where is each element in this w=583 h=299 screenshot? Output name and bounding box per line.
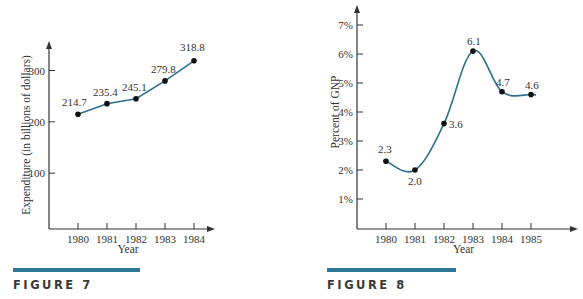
data-line bbox=[384, 51, 536, 172]
data-point bbox=[528, 92, 534, 98]
data-label: 279.8 bbox=[151, 63, 176, 75]
figure-7-caption: FIGURE 7 bbox=[13, 278, 93, 292]
x-tick-label: 1985 bbox=[520, 233, 543, 245]
figure-8-chart: 1%2%3%4%5%6%7%198019811982198319841985Ye… bbox=[329, 5, 578, 255]
figure-8-caption: FIGURE 8 bbox=[327, 278, 407, 292]
charts-canvas: 10020030019801981198219831984YearExpendi… bbox=[0, 0, 583, 299]
data-label: 318.8 bbox=[180, 41, 205, 53]
y-tick-label: 7% bbox=[338, 19, 353, 31]
y-axis-title: Expenditure (in billions of dollars) bbox=[20, 55, 33, 215]
data-point bbox=[412, 167, 418, 173]
data-point bbox=[383, 159, 389, 165]
y-tick-label: 2% bbox=[338, 164, 353, 176]
y-axis-arrow-icon bbox=[46, 41, 52, 49]
figure-7-accent-bar bbox=[13, 268, 140, 272]
x-tick-label: 1981 bbox=[96, 233, 118, 245]
x-tick-label: 1984 bbox=[491, 233, 514, 245]
figure-7-chart: 10020030019801981198219831984YearExpendi… bbox=[20, 41, 215, 255]
data-label: 235.4 bbox=[93, 86, 118, 98]
x-tick-label: 1984 bbox=[183, 233, 206, 245]
data-label: 2.3 bbox=[378, 143, 392, 155]
x-tick-label: 1983 bbox=[154, 233, 177, 245]
data-label: 3.6 bbox=[449, 118, 463, 130]
data-label: 2.0 bbox=[408, 175, 422, 187]
x-axis-arrow-icon bbox=[570, 226, 578, 232]
figure-8-accent-bar bbox=[327, 268, 456, 272]
y-tick-label: 6% bbox=[338, 48, 353, 60]
data-label: 6.1 bbox=[467, 35, 481, 47]
y-tick-label: 1% bbox=[338, 193, 353, 205]
x-axis-title: Year bbox=[453, 243, 474, 255]
data-point bbox=[499, 89, 505, 95]
data-point bbox=[441, 121, 447, 127]
x-tick-label: 1980 bbox=[375, 233, 398, 245]
x-tick-label: 1980 bbox=[67, 233, 90, 245]
data-label: 4.6 bbox=[525, 79, 539, 91]
y-axis-title: Percent of GNP bbox=[329, 76, 341, 149]
data-point bbox=[133, 96, 139, 102]
data-point bbox=[191, 58, 197, 64]
x-tick-label: 1982 bbox=[433, 233, 455, 245]
x-axis-title: Year bbox=[117, 243, 138, 255]
data-label: 4.7 bbox=[496, 76, 510, 88]
data-label: 245.1 bbox=[122, 81, 147, 93]
x-tick-label: 1981 bbox=[404, 233, 426, 245]
x-axis-arrow-icon bbox=[207, 226, 215, 232]
data-point bbox=[162, 78, 168, 84]
data-point bbox=[104, 101, 110, 107]
data-point bbox=[470, 48, 476, 54]
data-point bbox=[75, 111, 81, 117]
data-label: 214.7 bbox=[62, 96, 87, 108]
y-axis-arrow-icon bbox=[354, 5, 360, 13]
